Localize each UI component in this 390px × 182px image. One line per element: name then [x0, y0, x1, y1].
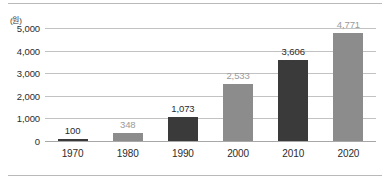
gridline-0: 0	[45, 141, 376, 142]
x-axis-tick-labels: 197019801990200020102020	[45, 148, 376, 164]
bar-2010[interactable]	[278, 60, 308, 141]
bar-value-label-1970: 100	[65, 125, 81, 136]
bar-group[interactable]: 100	[58, 28, 88, 141]
y-tick-label: 2,000	[17, 90, 40, 101]
bar-group[interactable]: 3,606	[278, 28, 308, 141]
y-tick-label: 0	[35, 136, 40, 147]
bottom-divider-rule	[8, 175, 382, 176]
bar-value-label-2020: 4,771	[337, 19, 360, 30]
bar-group[interactable]: 4,771	[333, 28, 363, 141]
x-tick-label-2000: 2000	[227, 148, 249, 159]
bar-2020[interactable]	[333, 33, 363, 141]
bar-1990[interactable]	[168, 117, 198, 141]
x-tick-label-1980: 1980	[117, 148, 139, 159]
y-tick-label: 5,000	[17, 23, 40, 34]
bar-value-label-1990: 1,073	[171, 103, 194, 114]
y-tick-label: 3,000	[17, 68, 40, 79]
x-tick-label-1970: 1970	[62, 148, 84, 159]
x-tick-label-2020: 2020	[337, 148, 359, 159]
bar-2000[interactable]	[223, 84, 253, 141]
bar-group[interactable]: 2,533	[223, 28, 253, 141]
y-tick-label: 4,000	[17, 45, 40, 56]
bar-value-label-2000: 2,533	[226, 70, 249, 81]
bar-1970[interactable]	[58, 139, 88, 141]
plot-area: 01,0002,0003,0004,0005,000 1003481,0732,…	[45, 28, 376, 141]
top-divider-rule	[8, 3, 382, 4]
bar-group[interactable]: 348	[113, 28, 143, 141]
bar-chart-figure: (원) 01,0002,0003,0004,0005,000 1003481,0…	[0, 0, 390, 182]
bar-value-label-1980: 348	[120, 119, 136, 130]
bar-group[interactable]: 1,073	[168, 28, 198, 141]
bar-value-label-2010: 3,606	[282, 46, 305, 57]
bars-layer: 1003481,0732,5333,6064,771	[45, 28, 376, 141]
x-tick-label-2010: 2010	[282, 148, 304, 159]
bar-1980[interactable]	[113, 133, 143, 141]
x-tick-label-1990: 1990	[172, 148, 194, 159]
y-tick-label: 1,000	[17, 113, 40, 124]
